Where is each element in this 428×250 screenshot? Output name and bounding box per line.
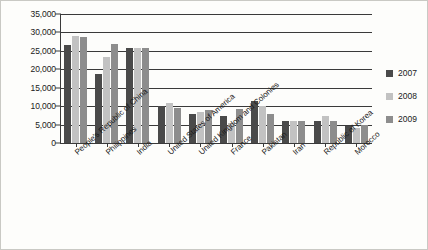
bar-group	[278, 14, 309, 143]
legend-swatch-icon	[386, 70, 393, 77]
legend-label: 2009	[398, 114, 417, 124]
bar-group	[310, 14, 341, 143]
legend-label: 2007	[398, 68, 417, 78]
bar-2009	[80, 37, 87, 143]
bar-2008	[166, 103, 173, 143]
bar-group	[60, 14, 91, 143]
legend-item-2008[interactable]: 2008	[386, 91, 417, 101]
bar-2009	[111, 44, 118, 144]
bar-group	[122, 14, 153, 143]
bar-2007	[64, 45, 71, 143]
legend-item-2009[interactable]: 2009	[386, 114, 417, 124]
legend-swatch-icon	[386, 116, 393, 123]
y-axis-tick-label: 25,000	[0, 46, 56, 56]
bar-2009	[298, 121, 305, 143]
bar-2008	[259, 106, 266, 143]
y-axis-tick-label: 35,000	[0, 9, 56, 19]
y-axis-tick-label: 20,000	[0, 64, 56, 74]
legend-item-2007[interactable]: 2007	[386, 68, 417, 78]
bar-chart: 35,00030,00025,00020,00015,00010,0005,00…	[0, 0, 428, 250]
bar-2008	[290, 121, 297, 143]
y-axis-tick-label: 5,000	[0, 120, 56, 130]
bar-2007	[158, 106, 165, 143]
bar-2007	[314, 121, 321, 143]
bar-2008	[72, 36, 79, 143]
legend-swatch-icon	[386, 93, 393, 100]
chart-legend: 200720082009	[386, 68, 417, 124]
legend-label: 2008	[398, 91, 417, 101]
y-axis-tick-label: 30,000	[0, 27, 56, 37]
bar-2008	[322, 116, 329, 143]
y-axis-tick-label: 15,000	[0, 83, 56, 93]
bar-group	[247, 14, 278, 143]
y-axis-tick-label: 0	[0, 138, 56, 148]
bar-group	[154, 14, 185, 143]
y-axis-tick-label: 10,000	[0, 101, 56, 111]
